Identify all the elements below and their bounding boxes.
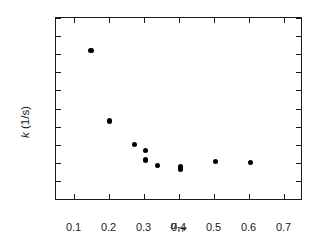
x-axis-tick-label: 0.1: [54, 221, 94, 233]
scatter-point: [132, 142, 137, 147]
y-axis-tick: [56, 18, 61, 19]
y-axis-tick-right: [296, 163, 301, 164]
scatter-point: [143, 157, 148, 162]
chart-figure: k (1/s) uTP 0.40.50.60.70.80.911.11.21.3…: [0, 0, 318, 244]
scatter-point: [107, 118, 112, 123]
x-axis-tick-top: [249, 18, 250, 23]
x-axis-tick-label: 0.6: [229, 221, 269, 233]
scatter-point: [143, 148, 148, 153]
y-axis-tick: [56, 109, 61, 110]
y-axis-tick: [56, 36, 61, 37]
y-axis-title: k (1/s): [19, 106, 31, 138]
y-axis-tick: [56, 163, 61, 164]
y-axis-tick: [56, 199, 61, 200]
x-axis-tick-top: [109, 18, 110, 23]
y-axis-tick-right: [296, 199, 301, 200]
y-axis-tick: [56, 127, 61, 128]
x-axis-tick: [74, 194, 75, 199]
x-axis-tick: [249, 194, 250, 199]
y-axis-title-symbol: k: [19, 132, 31, 138]
y-axis-tick-right: [296, 145, 301, 146]
y-axis-tick-right: [296, 127, 301, 128]
x-axis-tick-top: [74, 18, 75, 23]
x-axis-tick-label: 0.5: [194, 221, 234, 233]
y-axis-tick: [56, 54, 61, 55]
x-axis-tick-top: [284, 18, 285, 23]
y-axis-tick-right: [296, 36, 301, 37]
y-axis-tick: [56, 145, 61, 146]
x-axis-tick: [144, 194, 145, 199]
x-axis-tick-label: 0.7: [264, 221, 304, 233]
y-axis-tick-right: [296, 109, 301, 110]
x-axis-tick-top: [214, 18, 215, 23]
x-axis-tick-label: 0.4: [159, 221, 199, 233]
x-axis-tick: [109, 194, 110, 199]
y-axis-tick-right: [296, 54, 301, 55]
x-axis-tick: [284, 194, 285, 199]
scatter-point: [88, 48, 93, 53]
x-axis-tick-top: [144, 18, 145, 23]
y-axis-tick: [56, 72, 61, 73]
y-axis-tick-right: [296, 181, 301, 182]
y-axis-tick: [56, 181, 61, 182]
scatter-point: [248, 160, 253, 165]
scatter-point: [213, 159, 218, 164]
y-axis-tick-right: [296, 18, 301, 19]
x-axis-tick-label: 0.3: [124, 221, 164, 233]
x-axis-tick: [214, 194, 215, 199]
y-axis-title-units: (1/s): [19, 106, 31, 132]
scatter-point: [178, 166, 183, 171]
x-axis-tick: [179, 194, 180, 199]
scatter-point: [155, 163, 160, 168]
y-axis-tick-right: [296, 90, 301, 91]
y-axis-tick-right: [296, 72, 301, 73]
y-axis-tick: [56, 90, 61, 91]
x-axis-tick-label: 0.2: [89, 221, 129, 233]
plot-area: 0.40.50.60.70.80.911.11.21.31.4 0.10.20.…: [55, 17, 302, 200]
x-axis-tick-top: [179, 18, 180, 23]
